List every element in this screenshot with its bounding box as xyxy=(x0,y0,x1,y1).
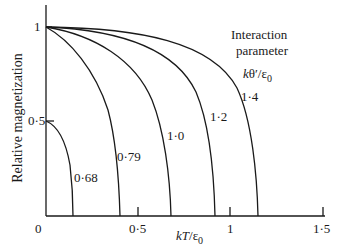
curve-1.2 xyxy=(46,27,215,216)
curve-0.79 xyxy=(46,27,120,216)
curve-label-0.68: 0·68 xyxy=(74,171,98,184)
y-tick-label-0.5: 0·5 xyxy=(28,114,45,127)
curve-label-1.4: 1·4 xyxy=(241,90,258,103)
legend-symbol: kθ′/ε0 xyxy=(243,67,272,84)
x-axis-label: kT/ε0 xyxy=(176,229,203,246)
legend-title-line2: parameter xyxy=(236,44,288,57)
x-tick-label-1.5: 1·5 xyxy=(313,222,330,235)
curve-label-0.79: 0·79 xyxy=(117,150,141,163)
y-axis-label: Relative magnetization xyxy=(10,48,26,188)
curve-0.68 xyxy=(46,121,73,216)
x-tick-label-0: 0 xyxy=(35,222,42,235)
x-tick-label-0.5: 0·5 xyxy=(129,222,146,235)
x-tick-label-1: 1 xyxy=(227,222,234,235)
curve-1.0 xyxy=(46,27,171,216)
y-tick-label-1: 1 xyxy=(34,20,41,33)
legend-title-line1: Interaction xyxy=(231,28,287,41)
curve-label-1.0: 1·0 xyxy=(167,129,184,142)
curve-label-1.2: 1·2 xyxy=(210,110,227,123)
